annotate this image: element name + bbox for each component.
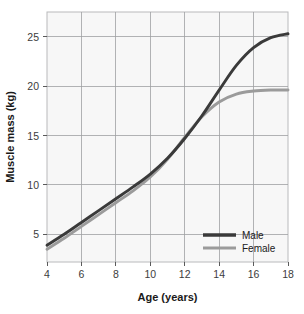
x-tick-label: 4 xyxy=(44,268,50,280)
x-tick-label: 16 xyxy=(248,268,260,280)
x-axis-ticks xyxy=(47,262,288,266)
legend-label-female: Female xyxy=(242,243,276,254)
chart-figure: 4681012141618 510152025 Age (years) Musc… xyxy=(0,0,304,314)
y-axis-tick-labels: 510152025 xyxy=(27,31,39,241)
x-tick-label: 12 xyxy=(179,268,191,280)
y-tick-label: 20 xyxy=(27,80,39,92)
y-tick-label: 25 xyxy=(27,31,39,43)
x-tick-label: 10 xyxy=(144,268,156,280)
y-axis-ticks xyxy=(43,37,47,235)
y-tick-label: 10 xyxy=(27,179,39,191)
y-tick-label: 5 xyxy=(33,228,39,240)
x-tick-label: 18 xyxy=(282,268,294,280)
muscle-mass-line-chart: 4681012141618 510152025 Age (years) Musc… xyxy=(0,0,304,314)
x-tick-label: 8 xyxy=(113,268,119,280)
x-tick-label: 14 xyxy=(213,268,225,280)
y-axis-title: Muscle mass (kg) xyxy=(4,91,16,183)
x-tick-label: 6 xyxy=(79,268,85,280)
legend-label-male: Male xyxy=(242,230,264,241)
x-axis-title: Age (years) xyxy=(138,291,198,303)
x-axis-tick-labels: 4681012141618 xyxy=(44,268,294,280)
y-tick-label: 15 xyxy=(27,130,39,142)
